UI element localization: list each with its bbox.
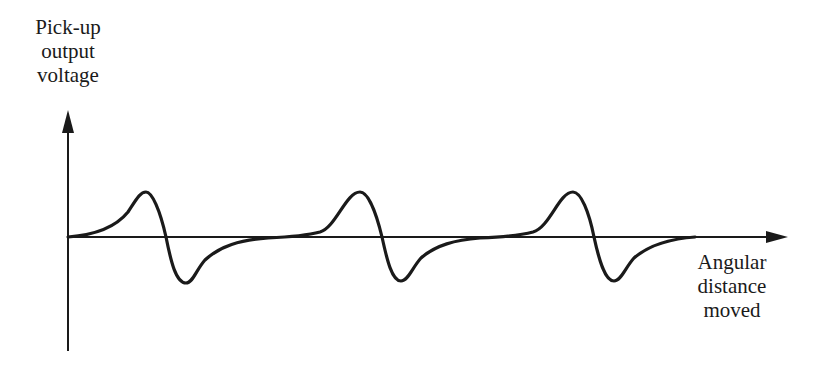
x-axis-label-line-3: moved <box>672 298 792 322</box>
x-axis-label: Angular distance moved <box>672 250 792 322</box>
y-axis-label-line-3: voltage <box>18 63 118 87</box>
x-axis-label-line-1: Angular <box>672 250 792 274</box>
x-axis-arrow-icon <box>766 231 788 243</box>
y-axis-arrow-icon <box>62 110 74 133</box>
x-axis-label-line-2: distance <box>672 274 792 298</box>
y-axis-label-line-1: Pick-up <box>18 15 118 39</box>
y-axis-label-line-2: output <box>18 39 118 63</box>
y-axis-label: Pick-up output voltage <box>18 15 118 87</box>
